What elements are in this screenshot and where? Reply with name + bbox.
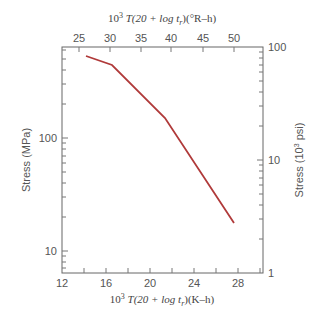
svg-text:25: 25 bbox=[73, 32, 85, 44]
top-tick-labels: 25 30 35 40 45 50 bbox=[73, 32, 240, 44]
left-axis-title: Stress (MPa) bbox=[20, 128, 32, 192]
svg-text:100: 100 bbox=[268, 41, 286, 53]
svg-text:12: 12 bbox=[56, 277, 68, 289]
svg-text:45: 45 bbox=[197, 32, 209, 44]
svg-text:24: 24 bbox=[188, 277, 200, 289]
bottom-axis-title: 103 T(20 + log tr)(K–h) bbox=[110, 292, 215, 308]
svg-text:10: 10 bbox=[45, 245, 57, 257]
plot-frame bbox=[62, 47, 263, 273]
left-tick-labels: 100 10 bbox=[39, 132, 57, 257]
right-ticks bbox=[257, 52, 263, 239]
svg-text:40: 40 bbox=[165, 32, 177, 44]
bottom-tick-labels: 12 16 20 24 28 bbox=[56, 277, 244, 289]
top-axis-title: 103 T(20 + log tr)(°R–h) bbox=[108, 11, 217, 27]
svg-text:1: 1 bbox=[268, 267, 274, 279]
svg-text:35: 35 bbox=[135, 32, 147, 44]
top-ticks bbox=[79, 47, 234, 52]
data-curve bbox=[86, 56, 234, 223]
svg-text:28: 28 bbox=[232, 277, 244, 289]
right-tick-labels: 100 10 1 bbox=[268, 41, 286, 279]
left-ticks bbox=[62, 50, 68, 268]
svg-text:30: 30 bbox=[104, 32, 116, 44]
svg-text:10: 10 bbox=[268, 154, 280, 166]
right-axis-title: Stress (103 psi) bbox=[293, 123, 305, 198]
bottom-ticks bbox=[84, 268, 260, 273]
svg-text:16: 16 bbox=[100, 277, 112, 289]
svg-text:50: 50 bbox=[228, 32, 240, 44]
svg-text:20: 20 bbox=[144, 277, 156, 289]
svg-text:100: 100 bbox=[39, 132, 57, 144]
larson-miller-chart: 103 T(20 + log tr)(°R–h) 25 30 35 40 45 … bbox=[0, 0, 314, 324]
